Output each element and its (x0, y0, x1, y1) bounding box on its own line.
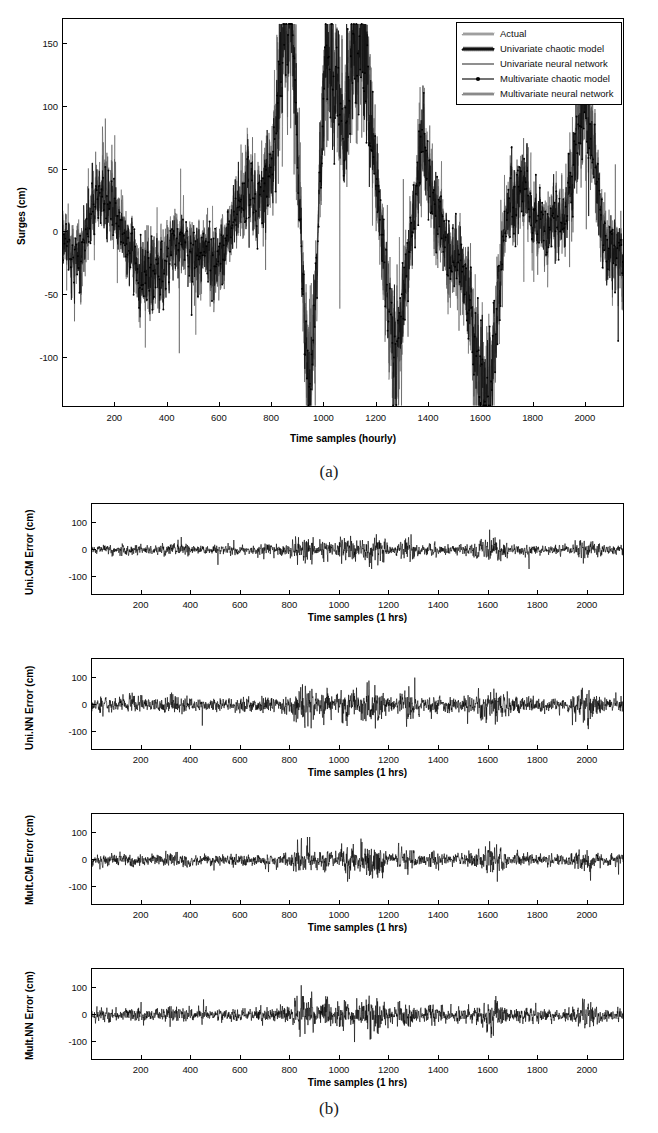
panel-b-subplot-1-x-tick-mark (537, 590, 538, 595)
panel-a-y-tick-label: 50 (26, 163, 58, 174)
legend-item: Univariate neural network (461, 56, 616, 71)
panel-b-subplot-3-x-tick-label: 600 (232, 909, 248, 920)
panel-b-subplot-4-y-tick-mark (91, 987, 96, 988)
panel-b-subplot-1-x-tick-mark (141, 590, 142, 595)
panel-b-subplot-1-x-tick-mark (488, 590, 489, 595)
panel-b-subplot-1-x-tick-label: 400 (182, 599, 198, 610)
panel-b-subplot-2-y-tick-mark (91, 704, 96, 705)
panel-b-subplot-4-x-tick-label: 1000 (329, 1064, 350, 1075)
legend-item: Univariate chaotic model (461, 41, 616, 56)
panel-b-subplot-3-y-tick-label: 100 (54, 826, 87, 837)
panel-b-subplot-4-y-tick-mark (91, 1014, 96, 1015)
panel-b-subplot-4-x-tick-label: 600 (232, 1064, 248, 1075)
panel-b-subplot-4-x-tick-mark (141, 1055, 142, 1060)
panel-b-subplot-3-x-tick-label: 200 (133, 909, 149, 920)
panel-a-y-tick-label: 150 (26, 38, 58, 49)
legend-item-label: Multivariate neural network (500, 88, 614, 100)
panel-b-subplot-1-x-tick-label: 1000 (329, 599, 350, 610)
panel-b-subplot-3-x-tick-mark (289, 900, 290, 905)
panel-b-subplot-3-y-tick-mark (91, 832, 96, 833)
panel-b: -100010020040060080010001200140016001800… (0, 492, 658, 1133)
panel-a-x-tick-label: 1200 (365, 412, 386, 423)
panel-b-subplot-3-x-tick-mark (240, 900, 241, 905)
legend-item-label: Univariate chaotic model (500, 43, 604, 55)
panel-b-subplot-1-x-tick-label: 1600 (477, 599, 498, 610)
panel-b-subplot-1-x-tick-label: 2000 (576, 599, 597, 610)
panel-b-subplot-4-x-tick-mark (488, 1055, 489, 1060)
panel-b-subplot-3-x-tick-mark (141, 900, 142, 905)
panel-b-subplot-3-x-tick-label: 1800 (527, 909, 548, 920)
panel-b-subplot-4-y-tick-label: -100 (54, 1036, 87, 1047)
panel-a-y-tick-label: -50 (26, 289, 58, 300)
panel-b-subplot-2-x-tick-mark (190, 745, 191, 750)
panel-b-subplot-3-plot-area (91, 813, 624, 905)
panel-b-subplot-2-x-tick-mark (488, 745, 489, 750)
panel-b-subplot-1-x-tick-label: 800 (282, 599, 298, 610)
panel-b-subplot-4-x-tick-label: 1600 (477, 1064, 498, 1075)
panel-a-y-tick-mark (62, 43, 67, 44)
panel-b-subplot-1-y-tick-label: 100 (54, 516, 87, 527)
panel-b-subplot-2-x-tick-label: 1800 (527, 754, 548, 765)
panel-b-subplot-1-y-tick-mark (91, 522, 96, 523)
panel-b-subplot-4-x-tick-mark (388, 1055, 389, 1060)
panel-b-subplot-4-x-tick-mark (438, 1055, 439, 1060)
panel-a-x-tick-mark (271, 402, 272, 407)
panel-b-subplot-2-x-tick-mark (388, 745, 389, 750)
panel-b-subplot-1-y-tick-label: 0 (54, 544, 87, 555)
panel-b-subplot-1-x-tick-label: 1400 (428, 599, 449, 610)
panel-a-x-tick-mark (428, 402, 429, 407)
panel-b-subplot-4-x-tick-mark (190, 1055, 191, 1060)
subfigure-caption-b: (b) (0, 1099, 658, 1119)
panel-b-subplot-4-x-tick-mark (289, 1055, 290, 1060)
panel-a-x-tick-label: 2000 (574, 412, 595, 423)
panel-b-subplot-2-x-tick-mark (240, 745, 241, 750)
panel-b-subplot-2-y-tick-label: -100 (54, 726, 87, 737)
panel-b-subplot-3-y-axis-title: Mult.CM Error (cm) (24, 815, 35, 905)
panel-b-subplot-4-y-tick-label: 100 (54, 981, 87, 992)
legend-item: Multivariate neural network (461, 86, 616, 101)
panel-b-subplot-2-x-tick-label: 1200 (378, 754, 399, 765)
panel-b-subplot-2-x-tick-label: 400 (182, 754, 198, 765)
panel-b-subplot-2-x-tick-label: 800 (282, 754, 298, 765)
panel-b-subplot-2-x-tick-label: 1000 (329, 754, 350, 765)
panel-b-subplot-1-x-tick-mark (190, 590, 191, 595)
panel-b-subplot-1-x-tick-mark (587, 590, 588, 595)
figure-page: Surges (cm) Time samples (hourly) -100-5… (0, 0, 658, 1133)
subfigure-caption-a: (a) (0, 462, 658, 482)
panel-b-subplot-4-x-tick-mark (240, 1055, 241, 1060)
panel-b-subplot-2-plot-area (91, 658, 624, 750)
panel-b-subplot-2-y-tick-label: 0 (54, 699, 87, 710)
panel-b-subplot-4-plot-area (91, 968, 624, 1060)
legend-item-label: Univariate neural network (500, 58, 608, 70)
panel-b-subplot-3-x-tick-label: 1400 (428, 909, 449, 920)
panel-b-subplot-2-x-axis-title: Time samples (1 hrs) (308, 767, 407, 778)
panel-a-x-tick-mark (114, 402, 115, 407)
panel-b-subplot-1-x-tick-label: 200 (133, 599, 149, 610)
legend-item-label: Actual (500, 28, 526, 40)
panel-a-y-tick-mark (62, 231, 67, 232)
panel-a-x-tick-label: 1600 (470, 412, 491, 423)
legend-line-swatch-thick-black (461, 43, 495, 55)
panel-b-subplot-1-x-tick-mark (438, 590, 439, 595)
panel-b-subplot-1-y-tick-label: -100 (54, 571, 87, 582)
panel-b-subplot-3-x-tick-label: 1600 (477, 909, 498, 920)
panel-b-subplot-1-y-axis-title: Uni.CM Error (cm) (24, 509, 35, 595)
panel-b-subplot-3-x-tick-label: 1000 (329, 909, 350, 920)
panel-a-x-tick-label: 1400 (418, 412, 439, 423)
panel-a-x-tick-label: 400 (159, 412, 175, 423)
legend-line-swatch-thin-black (461, 58, 495, 70)
panel-a-y-tick-mark (62, 169, 67, 170)
panel-b-subplot-3-x-tick-mark (488, 900, 489, 905)
panel-b-subplot-4-x-tick-label: 1400 (428, 1064, 449, 1075)
panel-b-subplot-4-y-tick-label: 0 (54, 1009, 87, 1020)
legend-item: Actual (461, 26, 616, 41)
panel-b-subplot-2-x-tick-mark (141, 745, 142, 750)
panel-b-subplot-2-x-tick-label: 600 (232, 754, 248, 765)
panel-a-x-tick-mark (167, 402, 168, 407)
panel-b-subplot-2-y-tick-label: 100 (54, 671, 87, 682)
panel-b-subplot-3-x-tick-label: 800 (282, 909, 298, 920)
panel-b-subplot-4-x-tick-label: 1200 (378, 1064, 399, 1075)
panel-b-subplot-4-x-tick-label: 800 (282, 1064, 298, 1075)
panel-b-subplot-3-x-tick-mark (339, 900, 340, 905)
panel-a-x-tick-label: 600 (211, 412, 227, 423)
